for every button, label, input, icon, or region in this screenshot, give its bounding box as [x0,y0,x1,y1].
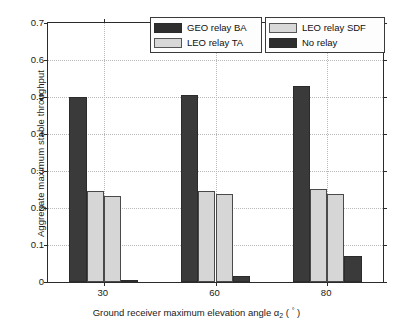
plot-area [47,22,384,283]
y-tick-mark [44,245,48,246]
y-tick-label: 0 [16,276,44,287]
y-axis-tick-labels: 00.10.20.30.40.50.60.7 [10,0,44,332]
legend-item-label: No relay [302,38,337,48]
y-tick-label: 0.2 [16,202,44,213]
y-tick-mark [383,60,387,61]
bar [216,194,233,282]
y-tick-mark [44,134,48,135]
x-tick-mark [104,19,105,23]
legend-swatch-icon [269,23,297,33]
bar-chart-figure: Aggregate maximum stable throughput 00.1… [0,0,393,332]
legend-item-label: LEO relay TA [187,38,243,48]
bar [198,191,215,282]
y-tick-mark [44,282,48,283]
bar [121,280,138,282]
y-tick-mark [383,245,387,246]
legend-left: GEO relay BA LEO relay TA [150,17,262,53]
bar [181,95,198,282]
y-tick-mark [44,171,48,172]
legend-item[interactable]: GEO relay BA [154,20,258,35]
y-tick-mark [383,134,387,135]
bar [104,196,121,282]
x-axis-title-close-paren: ) [294,307,300,318]
y-tick-label: 0.4 [16,128,44,139]
legend-right: LEO relay SDF No relay [265,17,385,53]
x-tick-label: 80 [306,287,346,298]
x-tick-label: 60 [195,287,235,298]
y-tick-mark [44,23,48,24]
bar [344,256,361,282]
x-tick-mark [327,282,328,286]
y-tick-label: 0.6 [16,54,44,65]
x-axis-title-text: Ground receiver maximum elevation angle [93,307,274,318]
legend-item-label: GEO relay BA [187,23,247,33]
bar [69,97,86,282]
y-tick-mark [383,171,387,172]
x-tick-mark [104,282,105,286]
legend-item[interactable]: No relay [269,35,381,50]
legend-item[interactable]: LEO relay TA [154,35,258,50]
legend-swatch-icon [269,38,297,48]
y-tick-mark [383,208,387,209]
y-tick-label: 0.3 [16,165,44,176]
y-tick-mark [44,60,48,61]
y-tick-mark [44,208,48,209]
y-tick-label: 0.7 [16,17,44,28]
y-tick-mark [383,97,387,98]
x-tick-mark [216,282,217,286]
legend-swatch-icon [154,23,182,33]
legend-swatch-icon [154,38,182,48]
bar [293,86,310,282]
y-tick-mark [383,282,387,283]
x-axis-title-open-paren: ( [283,307,291,318]
legend-item[interactable]: LEO relay SDF [269,20,381,35]
bar [310,189,327,282]
x-tick-label: 30 [83,287,123,298]
bar [327,194,344,282]
x-axis-title: Ground receiver maximum elevation angle … [0,307,393,319]
legend-item-label: LEO relay SDF [302,23,366,33]
bar [87,191,104,282]
y-tick-label: 0.5 [16,91,44,102]
y-tick-mark [44,97,48,98]
bar [233,276,250,282]
y-tick-label: 0.1 [16,239,44,250]
